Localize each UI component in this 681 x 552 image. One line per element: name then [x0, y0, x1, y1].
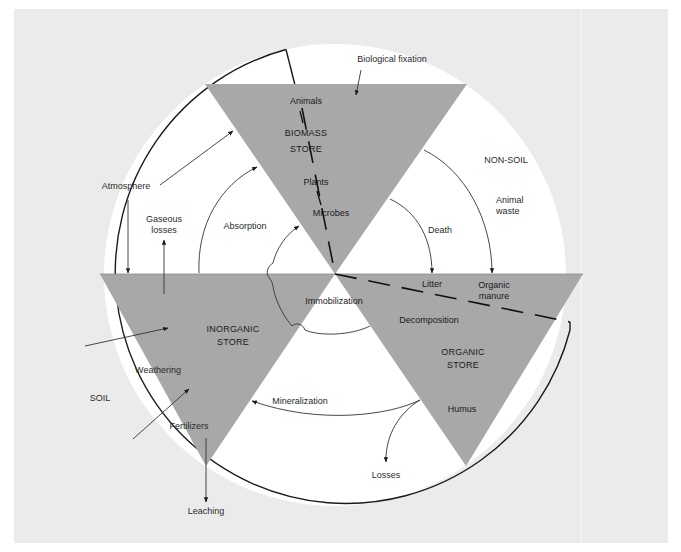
organic-manure-label-2: manure — [479, 291, 510, 301]
gaseous-losses-label-2: losses — [151, 225, 177, 235]
leaching-label: Leaching — [188, 506, 225, 516]
humus-label: Humus — [448, 404, 477, 414]
inorganic-store-subtitle: STORE — [217, 337, 249, 347]
atmosphere-label: Atmosphere — [102, 181, 151, 191]
microbes-label: Microbes — [313, 208, 350, 218]
mineralization-label: Mineralization — [272, 396, 328, 406]
plants-label: Plants — [303, 177, 329, 187]
non-soil-label: NON-SOIL — [484, 155, 528, 165]
animals-label: Animals — [290, 96, 323, 106]
nutrient-cycle-diagram: Biological fixation Animals BIOMASS STOR… — [0, 0, 681, 552]
animal-waste-label-2: waste — [495, 206, 520, 216]
biomass-store-title: BIOMASS — [285, 128, 327, 138]
biomass-store-subtitle: STORE — [290, 144, 322, 154]
decomposition-label: Decomposition — [399, 315, 459, 325]
immobilization-label: Immobilization — [305, 296, 363, 306]
absorption-label: Absorption — [223, 221, 266, 231]
death-label: Death — [428, 225, 452, 235]
animal-waste-label-1: Animal — [496, 195, 524, 205]
fertilizers-label: Fertilizers — [169, 421, 209, 431]
litter-label: Litter — [422, 279, 442, 289]
weathering-label: Weathering — [135, 365, 181, 375]
organic-store-subtitle: STORE — [447, 360, 479, 370]
organic-store-title: ORGANIC — [441, 347, 485, 357]
inorganic-store-title: INORGANIC — [207, 324, 260, 334]
soil-label: SOIL — [90, 393, 111, 403]
losses-label: Losses — [372, 470, 401, 480]
biological-fixation-label: Biological fixation — [357, 54, 427, 64]
gaseous-losses-label-1: Gaseous — [146, 214, 183, 224]
organic-manure-label-1: Organic — [478, 280, 510, 290]
